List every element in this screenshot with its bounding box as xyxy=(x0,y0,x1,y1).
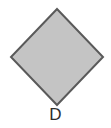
diamond-polygon xyxy=(11,9,103,105)
shape-label: D xyxy=(0,104,111,126)
shape-card: D xyxy=(0,0,111,128)
